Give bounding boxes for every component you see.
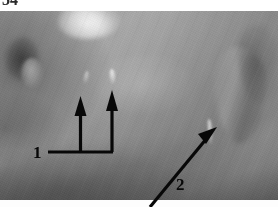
bracket-arrow-left-head bbox=[75, 96, 87, 116]
bracket-arrow-right-head bbox=[106, 90, 118, 111]
annotation-marker-2 bbox=[150, 127, 217, 207]
annotation-overlay: 1 2 bbox=[0, 0, 278, 207]
annotation-label-2: 2 bbox=[176, 176, 185, 193]
annotation-label-1: 1 bbox=[33, 144, 42, 161]
annotation-vector-layer bbox=[0, 0, 278, 207]
diagonal-arrow-head bbox=[198, 127, 217, 144]
diagonal-arrow-shaft bbox=[150, 138, 207, 207]
annotation-marker-1 bbox=[48, 90, 118, 152]
figure-root: 34 bbox=[0, 0, 278, 207]
figure-number-label: 34 bbox=[2, 0, 18, 5]
